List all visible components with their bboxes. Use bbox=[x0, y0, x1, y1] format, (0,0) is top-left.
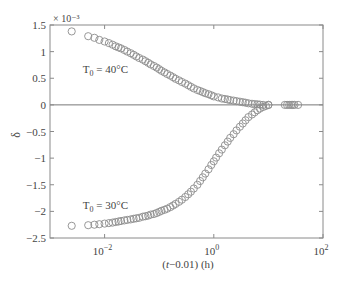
y-tick-label: −1.5 bbox=[26, 179, 46, 191]
y-tick-label: 0.5 bbox=[32, 72, 46, 84]
y-axis-multiplier: × 10⁻³ bbox=[53, 13, 79, 24]
series-annotation: T0 = 30°C bbox=[83, 199, 128, 214]
data-point bbox=[142, 58, 149, 65]
y-tick-label: −1 bbox=[34, 152, 46, 164]
y-tick-label: 1 bbox=[41, 46, 47, 58]
annotations: T0 = 40°CT0 = 30°C bbox=[83, 63, 128, 214]
y-axis-ticks: 1.510.50−0.5−1−1.5−2−2.5 bbox=[26, 19, 323, 244]
data-point bbox=[68, 28, 75, 35]
series-annotation: T0 = 40°C bbox=[83, 63, 128, 78]
x-axis-label: (t−0.01) (h) bbox=[162, 258, 214, 271]
x-tick-label: 102 bbox=[314, 243, 329, 257]
y-axis-label: δ bbox=[9, 132, 23, 138]
scatter-chart: 1.510.50−0.5−1−1.5−2−2.5 10−2100102 T0 =… bbox=[0, 0, 347, 288]
data-point bbox=[68, 222, 75, 229]
y-tick-label: −2 bbox=[34, 205, 46, 217]
data-point bbox=[156, 66, 163, 73]
y-tick-label: 0 bbox=[41, 99, 47, 111]
y-tick-label: −2.5 bbox=[26, 232, 46, 244]
x-tick-label: 10−2 bbox=[93, 243, 113, 257]
y-tick-label: −0.5 bbox=[26, 126, 46, 138]
x-tick-label: 100 bbox=[204, 243, 219, 257]
y-tick-label: 1.5 bbox=[32, 19, 46, 31]
